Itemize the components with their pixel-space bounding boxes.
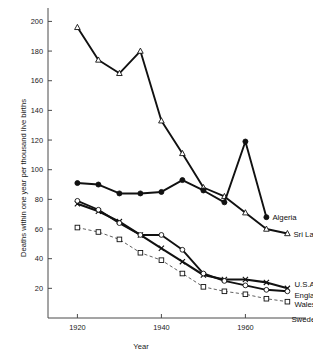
data-point (222, 279, 227, 284)
infant-mortality-line-chart: 20406080100120140160180200192019401960 S… (0, 0, 313, 361)
data-point (138, 250, 143, 255)
data-point (222, 200, 227, 205)
data-point (180, 271, 185, 276)
data-point (222, 289, 227, 294)
series-label-sri-lanka-ceylon: Sri Lanka (Ceylon) (293, 230, 313, 239)
y-tick-label: 200 (31, 17, 43, 26)
y-tick-label: 180 (31, 47, 43, 56)
data-point (201, 188, 206, 193)
data-point (96, 230, 101, 235)
data-point (159, 233, 164, 238)
data-point (243, 283, 248, 288)
data-point (285, 299, 290, 304)
data-point (117, 191, 122, 196)
data-point (159, 258, 164, 263)
data-point (96, 207, 101, 212)
y-tick-label: 80 (35, 195, 43, 204)
data-point (138, 233, 143, 238)
chart-background (0, 0, 313, 361)
series-label-algeria: Algeria (272, 213, 297, 222)
data-point (159, 189, 164, 194)
data-point (96, 182, 101, 187)
data-point (75, 198, 80, 203)
y-tick-label: 20 (35, 284, 43, 293)
data-point (264, 215, 269, 220)
data-point (201, 271, 206, 276)
data-point (75, 181, 80, 186)
y-tick-label: 140 (31, 106, 43, 115)
data-point (75, 225, 80, 230)
series-label-u-s-a: U.S.A (294, 280, 313, 289)
data-point (117, 221, 122, 226)
x-axis-title: Year (133, 342, 149, 351)
series-label-england-and-wales: England and (294, 291, 313, 300)
y-tick-label: 40 (35, 254, 43, 263)
y-tick-label: 100 (31, 165, 43, 174)
data-point (117, 237, 122, 242)
data-point (285, 289, 290, 294)
x-tick-label: 1960 (237, 323, 253, 332)
data-point (264, 296, 269, 301)
data-point (201, 285, 206, 290)
y-tick-label: 160 (31, 76, 43, 85)
series-label-england-and-wales-line2: Wales (294, 300, 313, 309)
data-point (180, 247, 185, 252)
data-point (264, 287, 269, 292)
data-point (180, 178, 185, 183)
y-tick-label: 120 (31, 136, 43, 145)
y-tick-label: 60 (35, 225, 43, 234)
series-label-sweden: Sweden (291, 315, 313, 324)
x-tick-label: 1940 (153, 323, 169, 332)
data-point (243, 292, 248, 297)
data-point (138, 191, 143, 196)
y-axis-title: Deaths within one year per thousand live… (19, 99, 28, 257)
data-point (243, 139, 248, 144)
x-tick-label: 1920 (69, 323, 85, 332)
